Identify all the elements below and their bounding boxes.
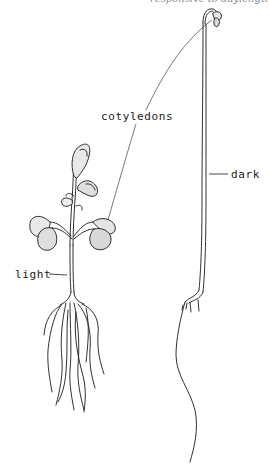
true-leaf-small-left — [62, 198, 72, 206]
cotyledons-leader-to-light — [108, 124, 136, 220]
cotyledons-label: cotyledons — [101, 111, 173, 122]
light-label: light — [15, 269, 51, 280]
right-cotyledon-lower — [90, 228, 111, 249]
cut-off-caption-text: responsive to daylength — [150, 0, 269, 4]
seedling-illustration: responsive to daylength cotyledons dark … — [0, 0, 269, 464]
left-cotyledon-lower — [38, 228, 57, 251]
cotyledons-leader-to-dark — [146, 20, 212, 110]
light-leader — [49, 274, 67, 275]
dark-grown-seedling — [176, 9, 221, 462]
dark-label: dark — [231, 169, 260, 180]
